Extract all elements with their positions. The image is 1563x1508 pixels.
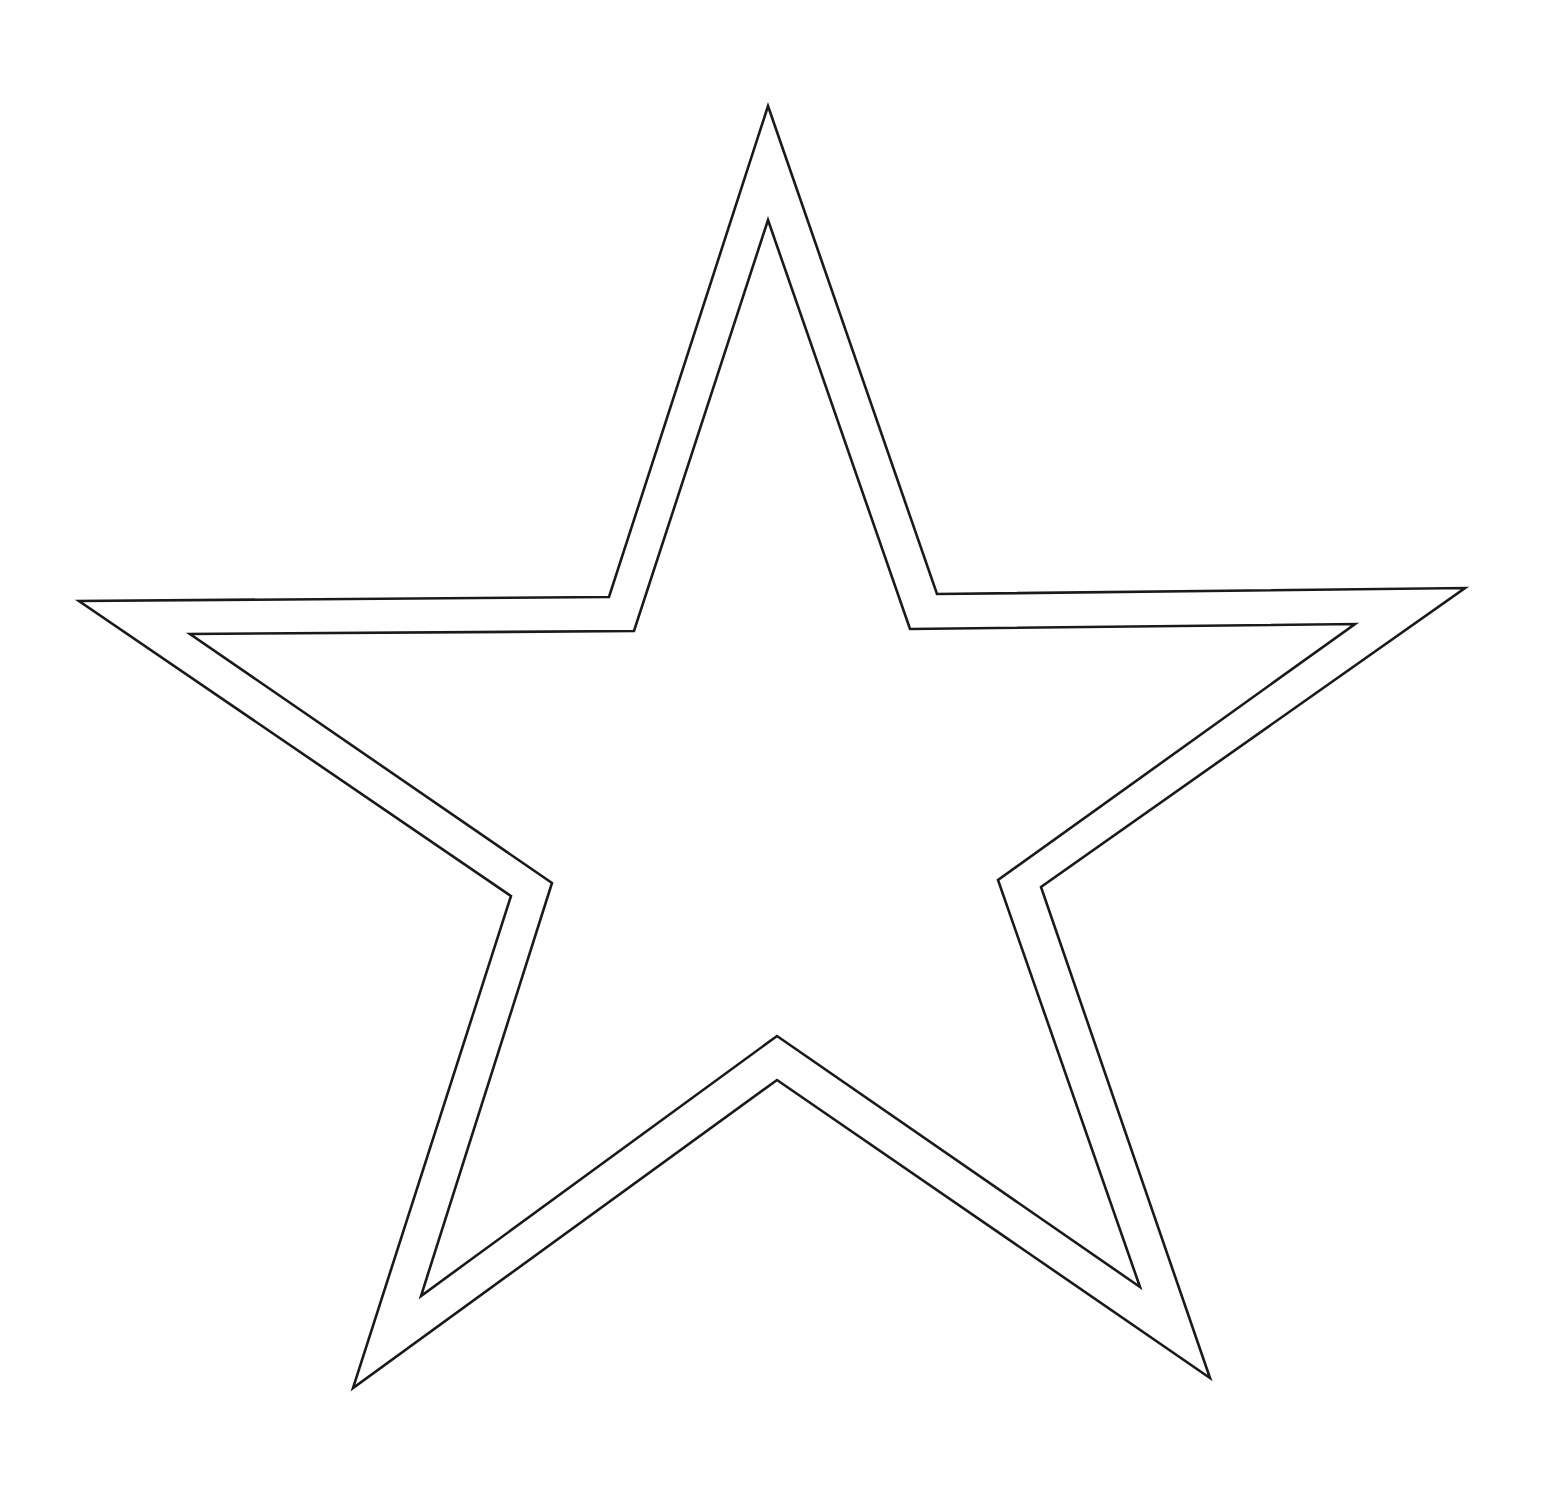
inner-star-outline (190, 220, 1355, 1296)
outer-star-outline (79, 106, 1465, 1388)
star-svg (0, 0, 1563, 1508)
star-drawing-canvas (0, 0, 1563, 1508)
